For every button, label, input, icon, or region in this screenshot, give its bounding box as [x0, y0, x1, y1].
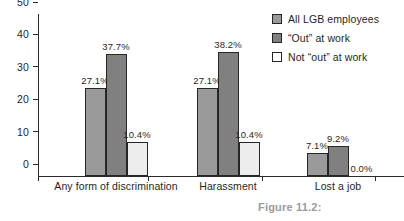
- bar: [127, 142, 148, 176]
- y-axis-tick-mark: [33, 34, 38, 35]
- legend-item: All LGB employees: [272, 11, 379, 27]
- figure-container: 01020304050 27.1%37.7%10.4%27.1%38.2%10.…: [0, 0, 404, 221]
- bar: [328, 146, 349, 176]
- legend-label: Not “out” at work: [288, 51, 367, 63]
- x-axis-category-label: Lost a job: [315, 180, 362, 192]
- bar-value-label: 10.4%: [123, 129, 150, 140]
- y-axis-tick: 10: [17, 126, 38, 138]
- x-axis-line: [38, 176, 404, 177]
- bar-value-label: 38.2%: [214, 39, 241, 50]
- y-axis-tick-label: 20: [17, 93, 33, 105]
- bar: [307, 153, 328, 176]
- y-axis-tick-label: 0: [23, 158, 33, 170]
- y-axis-tick-mark: [33, 2, 38, 3]
- bar-value-label: 37.7%: [102, 41, 129, 52]
- y-axis-tick-label: 50: [17, 0, 33, 8]
- legend-swatch: [272, 14, 282, 24]
- bar-value-label: 10.4%: [235, 129, 262, 140]
- x-axis-tick-mark: [38, 176, 39, 181]
- y-axis-tick-label: 30: [17, 61, 33, 73]
- chart-legend: All LGB employees“Out” at workNot “out” …: [272, 11, 379, 68]
- bar-value-label: 0.0%: [351, 163, 373, 174]
- bar: [106, 54, 127, 176]
- legend-swatch: [272, 52, 282, 62]
- x-axis-category-label: Harassment: [199, 180, 257, 192]
- y-axis-tick-mark: [33, 131, 38, 132]
- bar-value-label: 9.2%: [327, 133, 349, 144]
- bar: [85, 88, 106, 176]
- figure-caption: Figure 11.2:: [258, 201, 322, 213]
- bar-value-label: 7.1%: [306, 140, 328, 151]
- legend-item: “Out” at work: [272, 30, 379, 46]
- x-axis-category-label: Any form of discrimination: [54, 180, 177, 192]
- legend-swatch: [272, 33, 282, 43]
- y-axis-tick: 20: [17, 93, 38, 105]
- legend-label: All LGB employees: [288, 13, 379, 25]
- legend-item: Not “out” at work: [272, 49, 379, 65]
- bar: [218, 52, 239, 176]
- y-axis-tick-mark: [33, 99, 38, 100]
- x-axis-tick-mark: [375, 176, 376, 181]
- y-axis-tick-mark: [33, 164, 38, 165]
- bar: [239, 142, 260, 176]
- y-axis-tick-mark: [33, 66, 38, 67]
- bar: [197, 88, 218, 176]
- y-axis-tick-label: 40: [17, 28, 33, 40]
- y-axis-tick: 50: [17, 0, 38, 8]
- y-axis-tick: 0: [23, 158, 38, 170]
- legend-label: “Out” at work: [288, 32, 350, 44]
- x-axis-tick-mark: [262, 176, 263, 181]
- y-axis-tick: 40: [17, 28, 38, 40]
- y-axis-tick-label: 10: [17, 126, 33, 138]
- y-axis-tick: 30: [17, 61, 38, 73]
